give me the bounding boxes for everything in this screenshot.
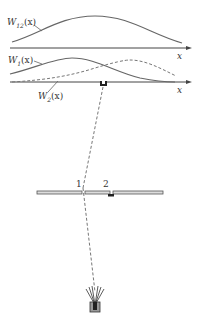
top-axis [10, 46, 192, 50]
slit-2-label: 2 [103, 180, 109, 189]
top-axis-label: x [177, 52, 182, 61]
w12-label: W12(x) [7, 18, 36, 29]
middle-axis-label: x [177, 86, 182, 95]
double-slit-screen [37, 191, 163, 197]
detector-top [100, 81, 107, 86]
diagram-canvas [0, 0, 201, 319]
w1-label: W1(x) [8, 56, 33, 67]
ray-lower [83, 188, 95, 292]
w12-curve [12, 16, 182, 43]
w2-curve [12, 60, 176, 82]
slit-1-label: 1 [76, 180, 82, 189]
ray-upper [83, 87, 103, 188]
w2-label: W2(x) [38, 92, 63, 103]
